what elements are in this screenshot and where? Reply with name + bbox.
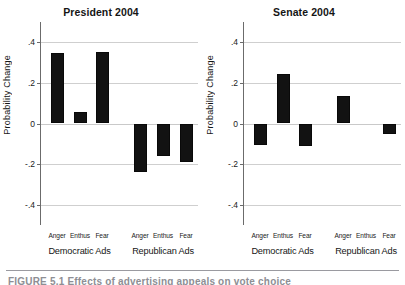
figure-container: President 2004 Probability Change .4 .2 … — [0, 0, 405, 285]
gridline-0.4 — [41, 42, 198, 43]
y-tick-mark-0.2 — [37, 83, 41, 84]
bar-republican-fear — [383, 124, 396, 134]
x-tick-label-enthus: Enthus — [70, 232, 90, 239]
gridline-0.2 — [41, 83, 198, 84]
gridline-neg0.4 — [244, 205, 401, 206]
gridline-neg0.2 — [244, 164, 401, 165]
y-tick-mark-neg0.4 — [37, 205, 41, 206]
y-axis-label-senate: Probability Change — [205, 55, 221, 135]
x-tick-labels-president: AngerEnthusFearAngerEnthusFear — [40, 232, 198, 243]
gridline-zero — [41, 124, 198, 125]
bar-democratic-anger — [254, 124, 267, 145]
footer-divider-rule — [6, 270, 399, 271]
y-tick-mark-0.2 — [240, 83, 244, 84]
x-group-labels-president: Democratic AdsRepublican Ads — [40, 246, 198, 260]
y-axis-label-president: Probability Change — [2, 55, 18, 135]
x-tick-label-fear: Fear — [179, 232, 192, 239]
y-tick-label-neg0.2: -.2 — [25, 159, 35, 169]
x-tick-label-anger: Anger — [48, 232, 65, 239]
x-tick-label-anger: Anger — [131, 232, 148, 239]
x-tick-label-enthus: Enthus — [273, 232, 293, 239]
y-tick-mark-neg0.2 — [240, 164, 244, 165]
gridline-neg0.2 — [41, 164, 198, 165]
bar-republican-anger — [337, 96, 350, 123]
x-group-label-republican: Republican Ads — [132, 246, 194, 256]
y-tick-label-neg0.4: -.4 — [228, 200, 238, 210]
x-tick-label-anger: Anger — [251, 232, 268, 239]
bar-republican-fear — [180, 124, 193, 163]
gridline-neg0.4 — [41, 205, 198, 206]
plot-area-president: .4 .2 0 -.2 -.4 — [40, 22, 198, 225]
x-tick-label-enthus: Enthus — [153, 232, 173, 239]
y-tick-mark-0.4 — [37, 42, 41, 43]
plot-area-senate: .4 .2 0 -.2 -.4 — [243, 22, 401, 225]
bar-democratic-anger — [51, 53, 64, 123]
bar-democratic-fear — [299, 124, 312, 146]
y-tick-mark-neg0.2 — [37, 164, 41, 165]
y-tick-mark-zero — [37, 124, 41, 125]
y-tick-label-0.4: .4 — [28, 37, 35, 47]
gridline-0.2 — [244, 83, 401, 84]
y-tick-label-0.2: .2 — [28, 78, 35, 88]
bar-democratic-fear — [96, 52, 109, 123]
x-tick-label-anger: Anger — [334, 232, 351, 239]
x-tick-label-fear: Fear — [95, 232, 108, 239]
x-tick-label-fear: Fear — [382, 232, 395, 239]
x-group-label-republican: Republican Ads — [335, 246, 397, 256]
y-tick-label-zero: 0 — [233, 119, 238, 129]
x-group-label-democratic: Democratic Ads — [48, 246, 110, 256]
x-tick-labels-senate: AngerEnthusFearAngerEnthusFear — [243, 232, 401, 243]
y-tick-label-neg0.4: -.4 — [25, 200, 35, 210]
chart-panel-president: President 2004 Probability Change .4 .2 … — [0, 0, 202, 268]
panel-title-president: President 2004 — [0, 6, 202, 18]
panel-title-senate: Senate 2004 — [203, 6, 405, 18]
gridline-0.4 — [244, 42, 401, 43]
figure-caption: FIGURE 5.1 Effects of advertising appeal… — [8, 276, 397, 285]
y-tick-label-0.2: .2 — [231, 78, 238, 88]
x-tick-label-fear: Fear — [298, 232, 311, 239]
x-group-label-democratic: Democratic Ads — [251, 246, 313, 256]
chart-panels: President 2004 Probability Change .4 .2 … — [0, 0, 405, 268]
bar-democratic-enthus — [74, 112, 87, 123]
gridline-zero — [244, 124, 401, 125]
y-tick-mark-neg0.4 — [240, 205, 244, 206]
bar-republican-anger — [134, 124, 147, 173]
y-tick-label-neg0.2: -.2 — [228, 159, 238, 169]
chart-panel-senate: Senate 2004 Probability Change .4 .2 0 -… — [203, 0, 405, 268]
y-tick-mark-zero — [240, 124, 244, 125]
y-tick-label-0.4: .4 — [231, 37, 238, 47]
bar-democratic-enthus — [277, 74, 290, 124]
x-tick-label-enthus: Enthus — [356, 232, 376, 239]
bar-republican-enthus — [157, 124, 170, 156]
x-group-labels-senate: Democratic AdsRepublican Ads — [243, 246, 401, 260]
y-tick-mark-0.4 — [240, 42, 244, 43]
y-tick-label-zero: 0 — [30, 119, 35, 129]
